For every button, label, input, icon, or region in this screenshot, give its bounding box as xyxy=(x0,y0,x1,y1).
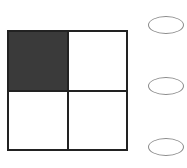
grid-cell-top-left-shaded xyxy=(7,30,69,92)
grid-cell-top-right xyxy=(67,30,128,92)
answer-option-2-oval[interactable] xyxy=(148,77,184,95)
grid-figure xyxy=(7,30,128,151)
answer-option-1-oval[interactable] xyxy=(148,16,184,34)
grid-cell-bottom-right xyxy=(67,90,128,151)
grid-cell-bottom-left xyxy=(7,90,69,151)
answer-option-3-oval[interactable] xyxy=(148,138,184,156)
